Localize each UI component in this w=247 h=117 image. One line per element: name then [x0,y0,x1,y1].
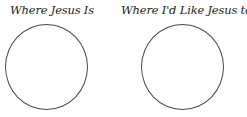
panel-title: Where I'd Like Jesus to Be [121,3,247,17]
empty-circle [141,24,224,110]
empty-circle [5,24,88,110]
panel-title: Where Jesus Is [10,3,94,17]
